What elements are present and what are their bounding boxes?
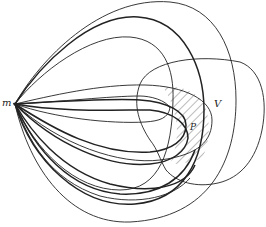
diagram-figure <box>0 0 266 227</box>
region-v-label: V <box>214 99 221 109</box>
point-m-marker <box>13 102 16 105</box>
point-m-label: m <box>2 98 11 108</box>
region-p-label: P <box>190 123 196 132</box>
